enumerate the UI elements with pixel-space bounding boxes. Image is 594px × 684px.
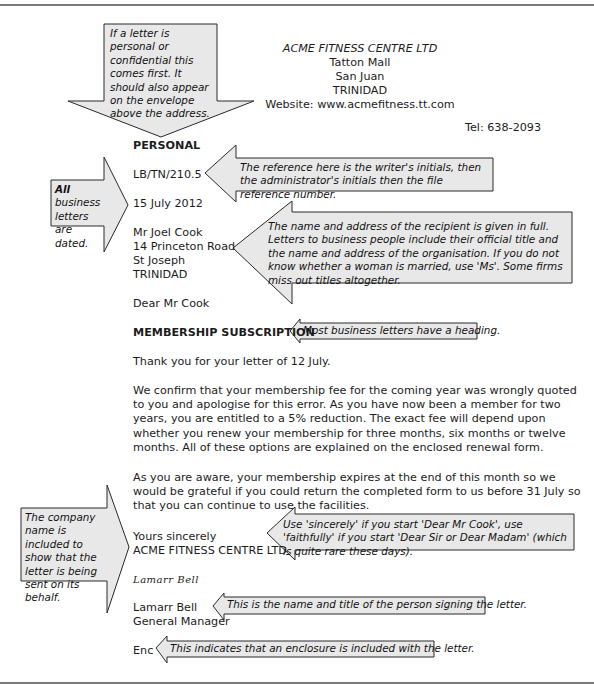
paragraph-3: As you are aware, your membership expire… [133, 471, 581, 514]
signature: Lamarr Bell [133, 574, 199, 585]
website[interactable]: Website: www.acmefitness.tt.com [250, 98, 470, 112]
paragraph-2: We confirm that your membership fee for … [133, 384, 581, 455]
recipient-line-4: TRINIDAD [133, 268, 187, 282]
address-line-1: Tatton Mall [250, 56, 470, 70]
letter-heading: MEMBERSHIP SUBSCRIPTION [133, 326, 315, 340]
recipient-line-1: Mr Joel Cook [133, 226, 202, 240]
signer-name: Lamarr Bell [133, 601, 197, 615]
address-line-3: TRINIDAD [250, 84, 470, 98]
annotation-company-name: The company name is included to show tha… [25, 511, 109, 605]
annotation-recipient: The name and address of the recipient is… [268, 220, 570, 287]
company-name: ACME FITNESS CENTRE LTD [250, 42, 470, 56]
annotation-heading: Most business letters have a heading. [303, 324, 500, 337]
annotation-personal: If a letter is personal or confidential … [110, 27, 214, 121]
annotation-dated-text: business letters are dated. [55, 196, 100, 248]
address-line-2: San Juan [250, 70, 470, 84]
annotation-dated-bold: All [55, 183, 70, 195]
closing-company: ACME FITNESS CENTRE LTD [133, 544, 287, 558]
closing: Yours sincerely [133, 530, 216, 544]
reference: LB/TN/210.5 [133, 168, 202, 182]
paragraph-1: Thank you for your letter of 12 July. [133, 355, 553, 369]
signer-title: General Manager [133, 615, 230, 629]
salutation: Dear Mr Cook [133, 297, 209, 311]
date: 15 July 2012 [133, 197, 203, 211]
recipient-line-3: St Joseph [133, 254, 185, 268]
annotation-reference: The reference here is the writer's initi… [240, 161, 492, 201]
annotation-enclosure: This indicates that an enclosure is incl… [170, 642, 475, 655]
telephone: Tel: 638-2093 [465, 121, 541, 135]
recipient-line-2: 14 Princeton Road [133, 240, 235, 254]
personal-marking: PERSONAL [133, 139, 200, 153]
annotation-closing: Use 'sincerely' if you start 'Dear Mr Co… [283, 518, 573, 558]
annotation-dated: All business letters are dated. [55, 183, 105, 250]
annotation-signer: This is the name and title of the person… [227, 598, 527, 611]
enclosure: Enc [133, 644, 153, 658]
